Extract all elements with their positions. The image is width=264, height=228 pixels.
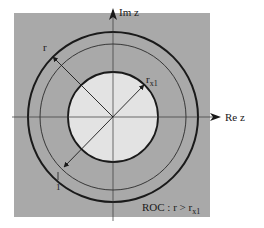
r-label: r (43, 41, 47, 53)
z-plane-diagram: Im z Re z r rx1 1 ROC : r > rx1 (0, 0, 264, 228)
unit-label: 1 (56, 182, 61, 192)
real-axis-label: Re z (225, 111, 245, 123)
imag-axis-label: Im z (119, 6, 139, 18)
